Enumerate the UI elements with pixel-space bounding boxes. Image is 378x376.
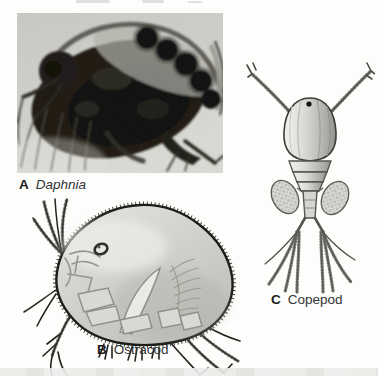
panel-letter-b: B [97,343,107,357]
panel-letter-a: A [19,178,29,192]
panel-letter-c: C [271,293,281,307]
bottom-crop-artifact [0,368,378,376]
crustacean-figure: A Daphnia [0,0,378,376]
copepod-abdomen [297,191,323,232]
panel-label-b: B Ostracod [97,343,169,357]
panel-label-a: A Daphnia [19,178,86,192]
panel-label-c: C Copepod [271,293,343,307]
ostracod-highlight [63,220,167,272]
top-crop-artifact [142,0,164,3]
copepod-segments [289,161,331,191]
photo-grain [17,13,223,173]
copepod-tail-setae [265,232,355,293]
panel-a-daphnia-photo [17,13,223,173]
copepod-eye [306,101,311,106]
species-name-copepod: Copepod [288,293,343,307]
copepod-drawing [245,60,375,295]
copepod-cephalothorax [284,98,336,161]
daphnia-photo [17,13,223,173]
panel-c-copepod-drawing [245,60,375,295]
top-crop-artifact [188,1,202,3]
species-name-ostracod: Ostracod [114,343,169,357]
top-crop-artifact [76,0,110,3]
species-name-daphnia: Daphnia [36,178,86,192]
